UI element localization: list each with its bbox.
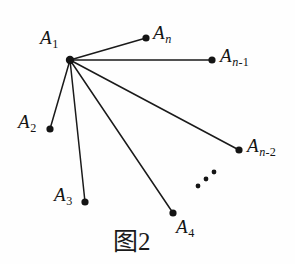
label-letter: A bbox=[40, 27, 52, 48]
figure-container: A1AnAn-1An-2A2A3A4 图2 bbox=[0, 0, 295, 264]
label-letter: A bbox=[176, 216, 188, 237]
ellipsis-dot-3 bbox=[212, 170, 217, 175]
vertex-label-A1: A1 bbox=[40, 28, 58, 47]
vertex-dot-An bbox=[142, 34, 149, 41]
edge-A1-An-2 bbox=[70, 60, 239, 150]
edge-A1-A3 bbox=[70, 60, 85, 202]
vertex-dot-An-2 bbox=[235, 146, 242, 153]
vertex-label-An: An bbox=[153, 23, 171, 42]
edge-A1-An bbox=[70, 38, 146, 60]
figure-caption: 图2 bbox=[113, 229, 151, 254]
ellipsis-dot-1 bbox=[196, 184, 201, 189]
label-subscript: 4 bbox=[188, 226, 194, 240]
label-letter: A bbox=[18, 111, 30, 132]
label-subscript: n-2 bbox=[259, 145, 276, 159]
label-letter: A bbox=[220, 45, 232, 66]
edge-A1-A4 bbox=[70, 60, 173, 213]
label-subscript: 2 bbox=[30, 121, 36, 135]
vertex-label-An-1: An-1 bbox=[220, 46, 249, 65]
edge-A1-A2 bbox=[50, 60, 70, 129]
label-letter: A bbox=[247, 135, 259, 156]
label-subscript: 1 bbox=[52, 37, 58, 51]
vertex-dot-A3 bbox=[81, 198, 88, 205]
vertex-label-A4: A4 bbox=[176, 217, 194, 236]
vertex-dot-A2 bbox=[46, 125, 53, 132]
vertex-dot-An-1 bbox=[208, 56, 215, 63]
vertex-label-A2: A2 bbox=[18, 112, 36, 131]
vertex-label-An-2: An-2 bbox=[247, 136, 276, 155]
vertex-label-A3: A3 bbox=[54, 185, 72, 204]
label-subscript: n-1 bbox=[232, 55, 249, 69]
ellipsis-dot-2 bbox=[204, 177, 209, 182]
vertex-dot-A1 bbox=[66, 56, 74, 64]
label-letter: A bbox=[54, 184, 66, 205]
nodes-group bbox=[46, 34, 242, 216]
label-subscript: n bbox=[165, 32, 171, 46]
label-subscript: 3 bbox=[66, 194, 72, 208]
ellipsis-dots-group bbox=[196, 170, 217, 189]
edges-group bbox=[50, 38, 239, 213]
label-letter: A bbox=[153, 22, 165, 43]
